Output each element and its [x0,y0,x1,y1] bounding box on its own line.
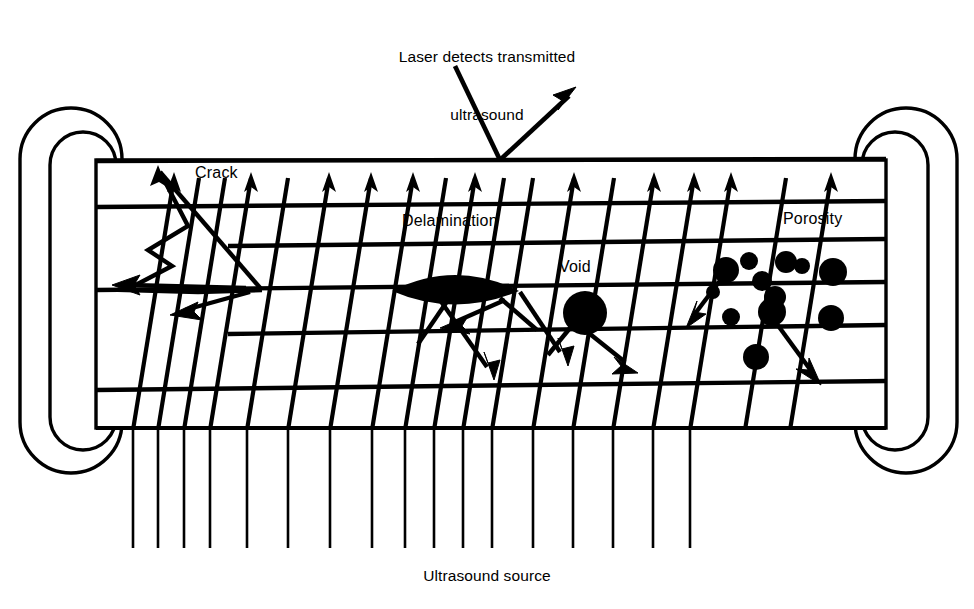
porosity-dot [743,344,769,370]
void-label: Void [559,257,591,277]
porosity-dot [775,251,797,273]
porosity-dot [758,298,786,326]
porosity-dot [819,258,847,286]
delamination-label: Delamination [402,211,498,231]
figure-title-line-2: ultrasound [337,105,637,124]
porosity-dot [740,252,758,270]
figure-title: Laser detects transmitted ultrasound [337,8,637,163]
crack-scatter-ray [128,285,246,288]
ultrasound-nde-figure: Laser detects transmitted ultrasound Cra… [0,0,974,609]
porosity-dot [722,308,740,326]
figure-title-line-1: Laser detects transmitted [337,47,637,66]
porosity-dot [818,305,844,331]
porosity-dot [794,258,810,274]
ultrasound-source-rays [133,428,690,548]
crack-label: Crack [195,163,238,183]
ultrasound-source-caption: Ultrasound source [337,566,637,585]
porosity-dot [713,257,739,283]
porosity-label: Porosity [783,209,842,229]
